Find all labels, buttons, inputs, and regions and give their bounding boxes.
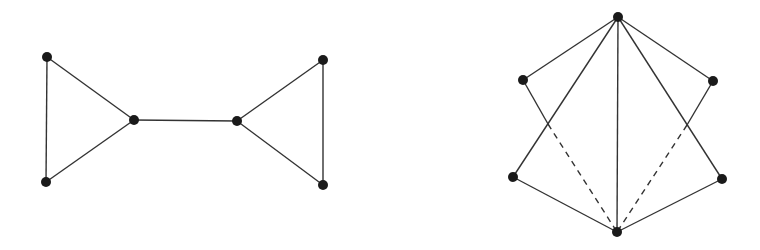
fan-graph-node-bt: [612, 227, 622, 237]
bowtie-graph-edge-c-d: [134, 120, 237, 121]
fan-graph-edge-ur-bt-dashed: [617, 125, 687, 232]
fan-graph-edge-ul-bt-solid: [523, 80, 548, 124]
fan-graph-node-lr: [717, 174, 727, 184]
fan-graph-edge-t-ul: [523, 17, 618, 80]
fan-graph-node-t: [613, 12, 623, 22]
diagram-canvas: [0, 0, 760, 250]
nodes-layer: [41, 12, 727, 237]
fan-graph-node-ul: [518, 75, 528, 85]
fan-graph-edge-t-lr: [618, 17, 722, 179]
fan-graph-node-ll: [508, 172, 518, 182]
fan-graph-edge-ur-bt-solid: [687, 81, 713, 125]
bowtie-graph-node-b: [41, 177, 51, 187]
fan-graph-edge-ll-bt: [513, 177, 617, 232]
fan-graph-edge-t-ll: [513, 17, 618, 177]
bowtie-graph-edge-a-c: [47, 57, 134, 120]
edges-layer: [46, 17, 722, 232]
fan-graph-edge-t-bt: [617, 17, 618, 232]
bowtie-graph-node-d: [232, 116, 242, 126]
bowtie-graph-edge-d-f: [237, 121, 323, 185]
bowtie-graph-node-e: [318, 55, 328, 65]
bowtie-graph-edge-b-c: [46, 120, 134, 182]
fan-graph-edge-lr-bt: [617, 179, 722, 232]
fan-graph-node-ur: [708, 76, 718, 86]
bowtie-graph-edge-a-b: [46, 57, 47, 182]
bowtie-graph-node-f: [318, 180, 328, 190]
fan-graph-edge-t-ur: [618, 17, 713, 81]
bowtie-graph-edge-d-e: [237, 60, 323, 121]
bowtie-graph-node-a: [42, 52, 52, 62]
fan-graph-edge-ul-bt-dashed: [548, 124, 617, 232]
bowtie-graph-node-c: [129, 115, 139, 125]
